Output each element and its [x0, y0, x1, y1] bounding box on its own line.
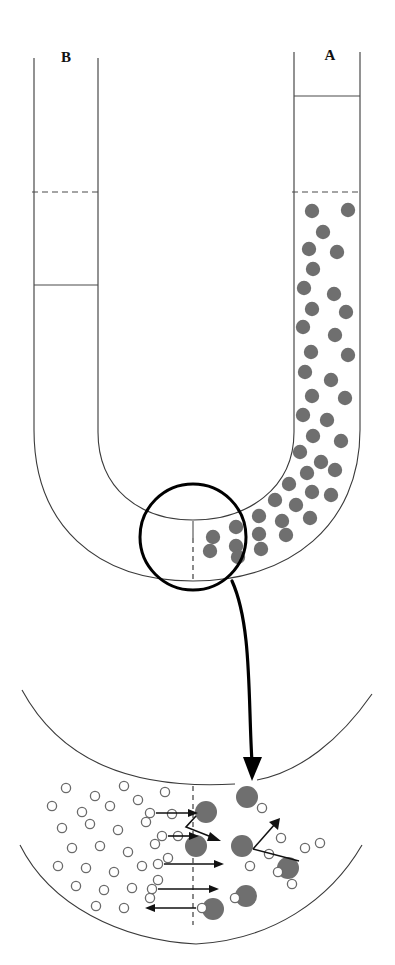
flow-arrow-right-4	[147, 884, 219, 893]
tube-outer-wall	[34, 52, 360, 581]
osmosis-diagram: B A	[0, 0, 395, 965]
solute-particles-detail	[185, 786, 299, 920]
detail-arc-top-right	[257, 694, 372, 780]
solute-particles-tube-a	[203, 203, 355, 564]
tube-label-b: B	[61, 49, 71, 65]
tube-inner-wall	[98, 52, 294, 520]
flow-arrow-left-backflow	[145, 903, 207, 912]
magnify-pointer-arrowhead	[243, 757, 262, 781]
detail-arc-bottom-right	[196, 845, 362, 944]
magnify-pointer-arrow	[232, 581, 252, 762]
solvent-particles-left	[47, 781, 182, 912]
tube-label-a: A	[325, 47, 336, 63]
detail-arc-top-left	[22, 690, 235, 785]
